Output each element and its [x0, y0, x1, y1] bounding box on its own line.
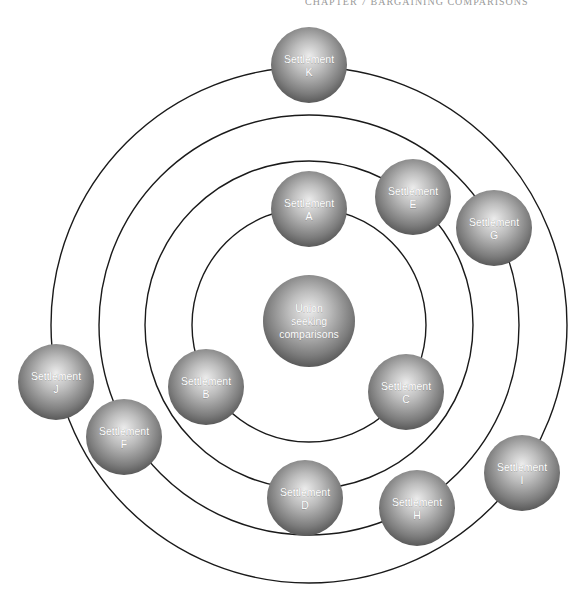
- node-label: Settlement: [497, 461, 547, 473]
- node-label: comparisons: [279, 328, 339, 340]
- settlement-node-e: SettlementE: [375, 159, 451, 235]
- settlement-node-j: SettlementJ: [18, 344, 94, 420]
- central-node-union: Unionseekingcomparisons: [263, 275, 355, 367]
- node-label: Settlement: [181, 375, 231, 387]
- node-label: seeking: [291, 315, 327, 327]
- settlement-node-i: SettlementI: [484, 435, 560, 511]
- node-label: E: [409, 198, 416, 210]
- node-label: Settlement: [99, 425, 149, 437]
- node-label: Settlement: [284, 53, 334, 65]
- orbit-diagram: UnionseekingcomparisonsSettlementASettle…: [0, 0, 585, 611]
- node-label: G: [490, 229, 498, 241]
- settlement-node-f: SettlementF: [86, 399, 162, 475]
- node-label: B: [202, 388, 209, 400]
- node-label: C: [402, 393, 410, 405]
- node-label: Union: [295, 302, 323, 314]
- node-label: I: [521, 474, 524, 486]
- node-label: Settlement: [284, 197, 334, 209]
- node-label: K: [305, 66, 312, 78]
- node-label: F: [121, 438, 127, 450]
- node-label: D: [301, 499, 309, 511]
- settlement-node-h: SettlementH: [379, 470, 455, 546]
- settlement-node-d: SettlementD: [267, 460, 343, 536]
- nodes: UnionseekingcomparisonsSettlementASettle…: [18, 27, 560, 546]
- node-label: Settlement: [388, 185, 438, 197]
- settlement-node-b: SettlementB: [168, 349, 244, 425]
- node-label: H: [413, 509, 421, 521]
- node-label: Settlement: [469, 216, 519, 228]
- settlement-node-c: SettlementC: [368, 354, 444, 430]
- settlement-node-a: SettlementA: [271, 171, 347, 247]
- node-label: Settlement: [392, 496, 442, 508]
- node-label: J: [53, 383, 58, 395]
- node-label: A: [305, 210, 312, 222]
- node-label: Settlement: [280, 486, 330, 498]
- node-label: Settlement: [31, 370, 81, 382]
- node-label: Settlement: [381, 380, 431, 392]
- settlement-node-k: SettlementK: [271, 27, 347, 103]
- settlement-node-g: SettlementG: [456, 190, 532, 266]
